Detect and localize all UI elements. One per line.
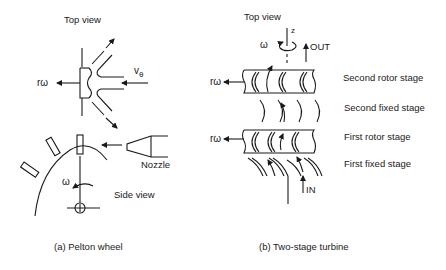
turbine-z-axis-label: z <box>291 27 295 35</box>
pelton-omega-label: ω <box>62 177 70 187</box>
stage-label-first-fixed: First fixed stage <box>344 159 411 169</box>
pelton-nozzle-label: Nozzle <box>141 160 170 170</box>
stage-label-second-fixed: Second fixed stage <box>344 103 425 113</box>
turbine-drawing <box>224 28 322 204</box>
turbine-in-label: IN <box>306 185 316 195</box>
pelton-top-view-label: Top view <box>64 15 101 25</box>
turbine-omega-label: ω <box>260 40 268 50</box>
turbine-r-omega-upper: rω <box>210 77 221 87</box>
turbine-out-label: OUT <box>310 42 330 52</box>
pelton-caption: (a) Pelton wheel <box>54 242 123 252</box>
turbine-r-omega-lower: rω <box>210 134 221 144</box>
pelton-top-view-drawing <box>57 39 148 128</box>
pelton-side-view-drawing <box>21 135 168 216</box>
pelton-r-omega-label: rω <box>37 78 48 88</box>
stage-label-second-rotor: Second rotor stage <box>343 73 423 83</box>
turbine-top-view-label: Top view <box>244 12 281 22</box>
stage-label-first-rotor: First rotor stage <box>344 132 411 142</box>
turbine-caption: (b) Two-stage turbine <box>259 242 349 252</box>
pelton-side-view-label: Side view <box>114 190 155 200</box>
theta-subscript: θ <box>139 70 143 79</box>
pelton-v-theta-label: vθ <box>134 66 143 79</box>
